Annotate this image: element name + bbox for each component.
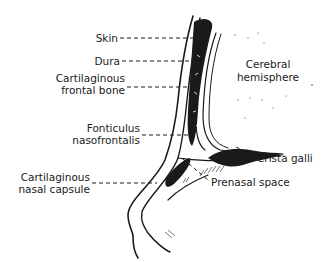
label-fonticulus-line2: nasofrontalis [40,134,140,146]
label-prenasal-space: Prenasal space [211,176,290,188]
anatomy-diagram: Skin Dura Cartilaginous frontal bone Fon… [0,0,327,262]
label-dura: Dura [58,55,120,67]
label-frontal-bone-line2: frontal bone [20,84,125,96]
label-fonticulus-line1: Fonticulus [40,122,140,134]
label-frontal-bone-line1: Cartilaginous [20,72,125,84]
label-skin: Skin [58,32,118,44]
label-cerebral-line2: hemisphere [228,71,308,83]
label-cerebral-line1: Cerebral [228,58,308,70]
label-nasal-capsule-line2: nasal capsule [0,183,90,195]
label-crista-galli: Crista galli [257,152,313,164]
label-nasal-capsule-line1: Cartilaginous [0,171,90,183]
